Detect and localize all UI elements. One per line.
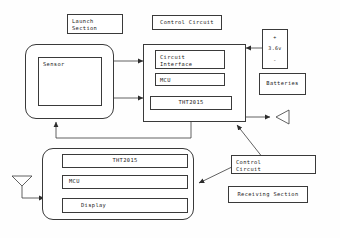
wire-rx-antenna-to-receiver xyxy=(22,186,44,198)
wire-control-circuit-label-to-transmitter xyxy=(237,125,263,158)
battery-cell: + 3.6v - xyxy=(262,29,288,69)
circuit-interface-block: Circuit Interface xyxy=(155,50,225,69)
wire-control-feedback-to-sensor xyxy=(56,122,191,138)
tht2015-block: THT2015 xyxy=(150,96,232,110)
receive-antenna-icon xyxy=(12,176,32,186)
diagram-canvas: Launch Section Sensor Control Circuit Ci… xyxy=(0,0,340,238)
launch-section-label: Launch Section xyxy=(67,14,123,34)
control-circuit-top-label: Control Circuit xyxy=(152,15,222,30)
battery-voltage-label: 3.6v xyxy=(263,45,287,52)
battery-minus-symbol: - xyxy=(263,57,287,64)
receiver-tht2015-block: THT2015 xyxy=(62,154,188,168)
transmit-antenna-icon xyxy=(276,110,289,124)
receiver-display-block: Display xyxy=(62,198,188,213)
mcu-block: MCU xyxy=(155,73,225,86)
batteries-label: Batteries xyxy=(259,73,306,95)
receiver-mcu-block: MCU xyxy=(62,175,188,189)
control-circuit-bottom-label: Control Circuit xyxy=(231,155,316,174)
sensor-block: Sensor xyxy=(38,57,102,106)
battery-plus-symbol: + xyxy=(263,34,287,41)
receiving-section-label: Receiving Section xyxy=(228,186,308,203)
